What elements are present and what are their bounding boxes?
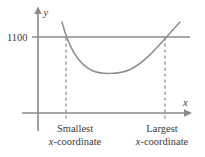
x-axis-label: x <box>182 97 188 108</box>
level-value-label: 1100 <box>7 32 28 43</box>
caption-smallest-coordinate-text: -coordinate <box>53 136 101 147</box>
caption-largest-line1: Largest <box>120 122 204 135</box>
graph-figure: y x 1100 Smallest x-coordinate Largest x… <box>0 0 205 157</box>
caption-largest-x-coordinate: Largest x-coordinate <box>120 122 204 148</box>
caption-largest-line2: x-coordinate <box>120 135 204 148</box>
parabola-curve <box>62 22 180 73</box>
y-axis-arrow-icon <box>34 7 41 15</box>
x-axis-arrow-icon <box>184 109 192 117</box>
caption-smallest-line1: Smallest <box>33 122 117 135</box>
caption-smallest-x-coordinate: Smallest x-coordinate <box>33 122 117 148</box>
caption-smallest-line2: x-coordinate <box>33 135 117 148</box>
caption-largest-coordinate-text: -coordinate <box>140 136 188 147</box>
y-axis-label: y <box>43 7 49 18</box>
